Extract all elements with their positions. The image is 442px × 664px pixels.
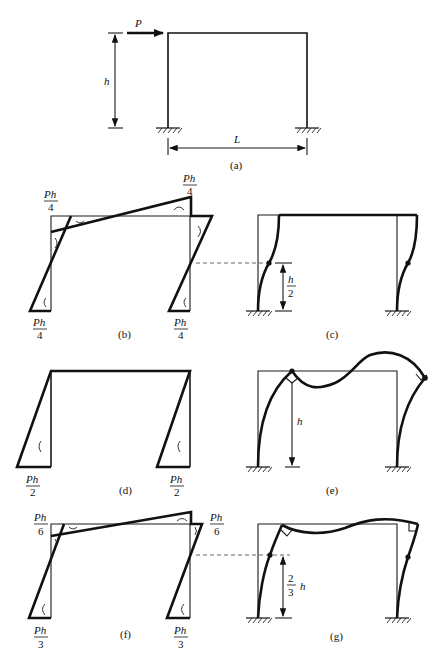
deflected-right-column (397, 378, 425, 467)
dim-label-num: h (288, 273, 294, 285)
moment-left-column (29, 524, 64, 618)
inflection-point (266, 260, 271, 265)
caption-g: (g) (330, 630, 343, 643)
caption-c: (c) (326, 328, 339, 341)
frame-outline (51, 216, 190, 311)
moment-right-column (167, 524, 202, 618)
caption-b: (b) (118, 328, 131, 341)
height-label: h (297, 415, 303, 427)
deflected-left-column (258, 371, 292, 467)
moment-label-num: Ph (33, 511, 47, 523)
moment-label-num: Ph (43, 188, 57, 200)
deflected-left-column (258, 525, 282, 618)
moment-label-num: Ph (33, 624, 47, 636)
dim-label-num: 2 (288, 572, 294, 584)
moment-label-den: 2 (30, 486, 36, 498)
fixed-support-icon (156, 128, 182, 133)
panel-e: h (e) (246, 352, 428, 497)
deflected-beam (292, 352, 425, 387)
fixed-support-icon (295, 128, 321, 133)
dim-label-den: 2 (288, 287, 294, 299)
moment-label-den: 3 (38, 638, 44, 650)
dim-label-var: h (300, 580, 306, 592)
caption-f: (f) (120, 628, 131, 641)
moment-label-num: Ph (32, 316, 46, 328)
moment-label-den: 4 (178, 329, 184, 341)
moment-label-den: 2 (174, 486, 180, 498)
panel-b: Ph 4 Ph 4 Ph 4 Ph 4 (b) (30, 172, 212, 341)
panel-f: Ph 6 Ph 6 Ph 3 Ph 3 (f) (29, 511, 224, 650)
moment-label-num: Ph (182, 172, 196, 184)
load-label: P (134, 17, 142, 29)
panel-g: 2 3 h (g) (246, 519, 418, 643)
moment-label-den: 4 (48, 201, 54, 213)
moment-label-num: Ph (209, 511, 223, 523)
moment-label-num: Ph (173, 624, 187, 636)
original-frame (258, 524, 397, 618)
moment-diagram (17, 371, 190, 467)
span-label: L (233, 133, 240, 145)
moment-label-num: Ph (25, 473, 39, 485)
dim-label-den: 3 (288, 586, 294, 598)
moment-label-den: 4 (187, 185, 193, 197)
moment-label-den: 4 (37, 329, 43, 341)
portal-frame-figure: P h L (a) Ph 4 Ph 4 Ph 4 Ph (0, 0, 442, 664)
caption-a: (a) (230, 159, 243, 172)
moment-label-num: Ph (173, 316, 187, 328)
moment-beam (51, 197, 191, 232)
inflection-point (405, 260, 410, 265)
moment-label-den: 3 (178, 638, 184, 650)
height-label: h (104, 75, 110, 87)
frame-outline (168, 33, 307, 128)
panel-c: h 2 (c) (246, 215, 417, 341)
panel-a: P h L (a) (104, 17, 321, 172)
deflected-beam (282, 519, 418, 533)
deflected-right-column (397, 524, 418, 618)
moment-label-den: 6 (214, 525, 220, 537)
panel-d: Ph 2 Ph 2 (d) (17, 371, 190, 498)
moment-label-den: 6 (38, 525, 44, 537)
moment-label-num: Ph (169, 473, 183, 485)
caption-e: (e) (326, 484, 339, 497)
frame-outline (51, 371, 190, 467)
caption-d: (d) (119, 484, 132, 497)
frame-outline (51, 524, 190, 618)
